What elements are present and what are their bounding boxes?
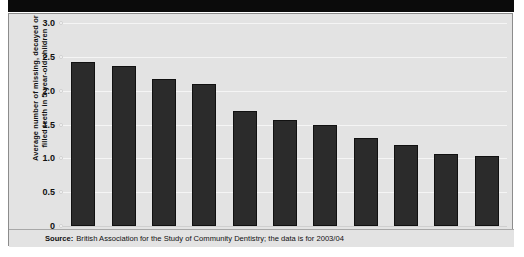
bar-scotland xyxy=(112,66,136,226)
bar-y-h xyxy=(192,84,216,226)
bar-nw xyxy=(152,79,176,226)
bar-se xyxy=(434,154,458,226)
source-note: Source: British Association for the Stud… xyxy=(9,229,514,247)
bar-slot xyxy=(184,23,224,226)
bar-slot xyxy=(144,23,184,226)
y-tick-label: 2.5 xyxy=(42,52,55,62)
bar-ne xyxy=(233,111,257,226)
chart-panel: Average number of missing, decayed or fi… xyxy=(8,13,513,246)
y-axis-title-line-1: Average number of missing, decayed or xyxy=(31,15,40,161)
y-tick-label: 1.5 xyxy=(42,120,55,130)
bar-wales xyxy=(71,62,95,226)
top-black-band xyxy=(8,0,514,12)
y-tick-label: 1.0 xyxy=(42,153,55,163)
bar-slot xyxy=(426,23,466,226)
source-text: British Association for the Study of Com… xyxy=(76,234,344,243)
bar-slot xyxy=(224,23,264,226)
chart-figure: Average number of missing, decayed or fi… xyxy=(0,0,524,257)
bar-slot xyxy=(103,23,143,226)
y-tick-label: 3.0 xyxy=(42,18,55,28)
bar-slot xyxy=(467,23,507,226)
bar-sw xyxy=(313,125,337,226)
bars-group xyxy=(63,23,507,226)
bar-wm xyxy=(475,156,499,226)
bar-em xyxy=(354,138,378,226)
bar-slot xyxy=(265,23,305,226)
bar-london xyxy=(273,120,297,226)
x-axis-baseline xyxy=(63,226,507,227)
bar-slot xyxy=(346,23,386,226)
y-tick-label: 2.0 xyxy=(42,86,55,96)
bar-slot xyxy=(63,23,103,226)
plot-area: 3.02.52.01.51.00.50 xyxy=(63,23,507,226)
source-label: Source: xyxy=(45,234,73,243)
y-tick-label: 0.5 xyxy=(42,187,55,197)
bar-east xyxy=(394,145,418,226)
bar-slot xyxy=(305,23,345,226)
bar-slot xyxy=(386,23,426,226)
